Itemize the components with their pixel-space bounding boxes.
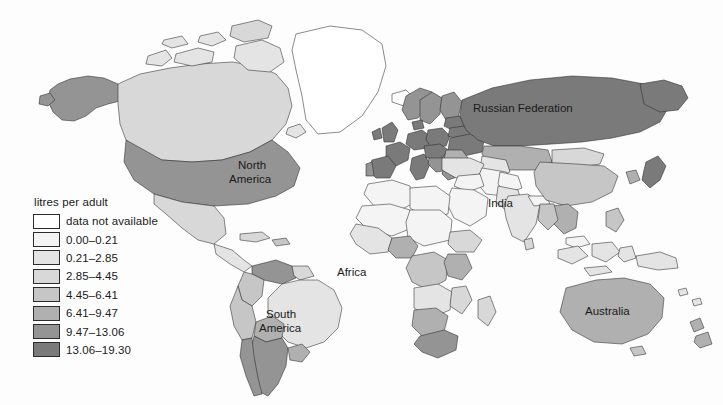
legend-swatch — [33, 342, 60, 357]
map-label-north-america-line2: America — [229, 173, 272, 185]
legend-row: 9.47–13.06 — [33, 322, 158, 340]
map-label-north-america-line1: North — [238, 159, 266, 171]
map-label-africa: Africa — [337, 266, 367, 278]
legend-swatch — [33, 232, 60, 247]
legend-title: litres per adult — [34, 196, 158, 208]
map-label-india: India — [488, 197, 514, 209]
legend-label: 9.47–13.06 — [66, 326, 125, 338]
legend-swatch — [33, 287, 60, 302]
country-denmark — [412, 120, 424, 130]
legend-swatch — [33, 269, 60, 284]
legend-label: 13.06–19.30 — [66, 344, 131, 356]
map-label-australia: Australia — [585, 305, 630, 317]
legend-swatch — [33, 214, 60, 229]
island-sri-lanka — [524, 238, 534, 250]
legend-row: 13.06–19.30 — [33, 341, 158, 359]
legend-row: 6.41–9.47 — [33, 304, 158, 322]
legend-label: 4.45–6.41 — [66, 289, 118, 301]
legend-row: data not available — [33, 212, 158, 230]
map-label-russian-federation: Russian Federation — [473, 102, 573, 114]
legend-row: 4.45–6.41 — [33, 286, 158, 304]
legend-swatch — [33, 306, 60, 321]
world-map-figure: .c{stroke:#2b2b2b;stroke-width:.55;strok… — [0, 0, 723, 405]
map-legend: litres per adult data not available0.00–… — [33, 196, 158, 359]
legend-swatch — [33, 250, 60, 265]
legend-row: 0.21–2.85 — [33, 249, 158, 267]
legend-row: 0.00–0.21 — [33, 230, 158, 248]
legend-rows: data not available0.00–0.210.21–2.852.85… — [33, 212, 158, 359]
legend-label: 2.85–4.45 — [66, 270, 118, 282]
legend-label: 6.41–9.47 — [66, 307, 118, 319]
legend-label: data not available — [66, 215, 158, 227]
legend-label: 0.21–2.85 — [66, 252, 118, 264]
legend-label: 0.00–0.21 — [66, 234, 118, 246]
legend-swatch — [33, 324, 60, 339]
map-label-south-america-line2: America — [259, 322, 302, 334]
legend-row: 2.85–4.45 — [33, 267, 158, 285]
map-label-south-america-line1: South — [266, 308, 296, 320]
